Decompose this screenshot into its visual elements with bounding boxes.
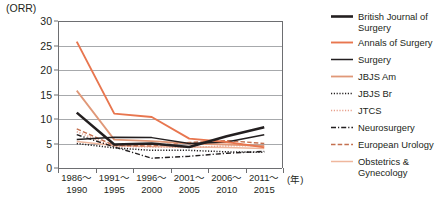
gridline-15 bbox=[59, 95, 282, 96]
legend-label-line2: Surgery bbox=[358, 22, 391, 33]
chart-legend: British Journal ofSurgeryAnnals of Surge… bbox=[331, 10, 438, 181]
legend-swatch-obstetrics-gynecology bbox=[331, 155, 353, 168]
legend-label-neurosurgery: Neurosurgery bbox=[358, 121, 415, 133]
x-tick-label-5: 2011～2015 bbox=[238, 172, 290, 195]
legend-label-line1: British Journal of bbox=[358, 11, 428, 22]
legend-item-british-journal-of-surgery[interactable]: British Journal ofSurgery bbox=[331, 10, 438, 33]
y-tick-label-20: 20 bbox=[0, 64, 52, 76]
legend-label-annals-of-surgery: Annals of Surgery bbox=[358, 36, 433, 48]
y-tick-mark-30 bbox=[54, 21, 58, 22]
y-tick-label-0: 0 bbox=[0, 162, 52, 174]
legend-label-line1: Annals of Surgery bbox=[358, 37, 433, 48]
y-axis-title: (ORR) bbox=[6, 2, 36, 14]
y-tick-label-30: 30 bbox=[0, 15, 52, 27]
y-tick-mark-25 bbox=[54, 45, 58, 46]
legend-label-line1: Obstetrics & bbox=[358, 156, 409, 167]
gridline-30 bbox=[59, 21, 282, 22]
legend-label-jbjs-am: JBJS Am bbox=[358, 70, 396, 82]
y-tick-label-25: 25 bbox=[0, 40, 52, 52]
legend-swatch-jbjs-am bbox=[331, 70, 353, 83]
gridline-20 bbox=[59, 70, 282, 71]
y-tick-label-10: 10 bbox=[0, 113, 52, 125]
x-tick-label-line2: 2015 bbox=[238, 184, 290, 196]
gridline-5 bbox=[59, 144, 282, 145]
legend-swatch-annals-of-surgery bbox=[331, 36, 353, 49]
legend-label-british-journal-of-surgery: British Journal ofSurgery bbox=[358, 10, 428, 33]
y-tick-label-15: 15 bbox=[0, 89, 52, 101]
legend-label-european-urology: European Urology bbox=[358, 138, 434, 150]
legend-label-jtcs: JTCS bbox=[358, 104, 381, 116]
y-tick-mark-5 bbox=[54, 143, 58, 144]
legend-label-line1: European Urology bbox=[358, 139, 434, 150]
legend-item-jbjs-br[interactable]: JBJS Br bbox=[331, 87, 438, 101]
legend-label-surgery: Surgery bbox=[358, 53, 391, 65]
legend-item-annals-of-surgery[interactable]: Annals of Surgery bbox=[331, 36, 438, 50]
gridline-10 bbox=[59, 119, 282, 120]
legend-swatch-british-journal-of-surgery bbox=[331, 10, 353, 23]
legend-label-line1: JTCS bbox=[358, 105, 381, 116]
legend-label-jbjs-br: JBJS Br bbox=[358, 87, 392, 99]
y-tick-label-5: 5 bbox=[0, 138, 52, 150]
y-tick-mark-20 bbox=[54, 70, 58, 71]
legend-swatch-jtcs bbox=[331, 104, 353, 117]
gridline-25 bbox=[59, 46, 282, 47]
y-tick-mark-15 bbox=[54, 94, 58, 95]
legend-item-jtcs[interactable]: JTCS bbox=[331, 104, 438, 118]
legend-label-line1: JBJS Am bbox=[358, 71, 396, 82]
legend-swatch-jbjs-br bbox=[331, 87, 353, 100]
x-axis-unit-label: (年) bbox=[287, 172, 303, 186]
orr-line-chart: (ORR) 051015202530 1986～19901991～1995199… bbox=[0, 0, 438, 208]
plot-area bbox=[58, 21, 283, 168]
legend-item-jbjs-am[interactable]: JBJS Am bbox=[331, 70, 438, 84]
x-tick-label-line1: 2011～ bbox=[249, 172, 279, 183]
legend-item-neurosurgery[interactable]: Neurosurgery bbox=[331, 121, 438, 135]
legend-item-european-urology[interactable]: European Urology bbox=[331, 138, 438, 152]
legend-item-surgery[interactable]: Surgery bbox=[331, 53, 438, 67]
legend-label-line1: Surgery bbox=[358, 54, 391, 65]
y-tick-mark-10 bbox=[54, 119, 58, 120]
legend-swatch-neurosurgery bbox=[331, 121, 353, 134]
legend-swatch-european-urology bbox=[331, 138, 353, 151]
legend-label-obstetrics-gynecology: Obstetrics &Gynecology bbox=[358, 155, 409, 178]
legend-item-obstetrics-gynecology[interactable]: Obstetrics &Gynecology bbox=[331, 155, 438, 178]
legend-label-line2: Gynecology bbox=[358, 167, 408, 178]
legend-label-line1: JBJS Br bbox=[358, 88, 392, 99]
legend-swatch-surgery bbox=[331, 53, 353, 66]
legend-label-line1: Neurosurgery bbox=[358, 122, 415, 133]
